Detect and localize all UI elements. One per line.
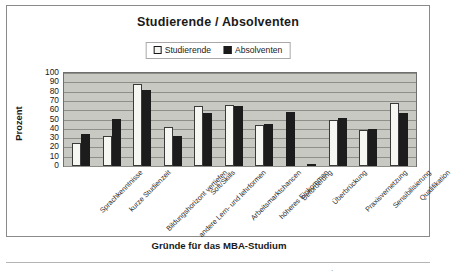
legend-swatch-absolventen-icon [224, 46, 232, 54]
bar-absolventen [399, 113, 408, 166]
y-axis-ticks: 1009080706050403020100 [29, 66, 59, 173]
legend-swatch-studierende-icon [154, 46, 162, 54]
bar-studierende [225, 105, 234, 166]
y-tick-label: 20 [50, 142, 59, 150]
legend-item-absolventen: Absolventen [224, 45, 282, 55]
bar-group [225, 105, 243, 166]
bar-absolventen [81, 134, 90, 166]
bar-group [72, 134, 90, 166]
bar-group [133, 84, 151, 166]
bar-studierende [133, 84, 142, 166]
chart-legend: Studierende Absolventen [146, 42, 291, 59]
chart-title: Studierende / Absolventen [7, 15, 429, 29]
gridline [64, 166, 416, 167]
bar-group [359, 129, 377, 166]
x-tick-label: Überbrückung [331, 168, 369, 206]
y-tick-label: 0 [54, 161, 59, 169]
legend-label-studierende: Studierende [165, 45, 211, 55]
bar-absolventen [307, 164, 316, 166]
bar-group [286, 112, 295, 166]
bar-group [329, 118, 347, 166]
bar-absolventen [142, 90, 151, 166]
y-tick-label: 40 [50, 124, 59, 132]
legend-item-studierende: Studierende [154, 45, 211, 55]
bar-absolventen [368, 129, 377, 166]
bar-series-container [64, 73, 416, 166]
y-tick-label: 60 [50, 105, 59, 113]
bar-absolventen [112, 119, 121, 166]
y-tick-label: 70 [50, 96, 59, 104]
x-tick-label: Beförderung [299, 168, 333, 202]
bar-group [390, 103, 408, 166]
plot-area [63, 72, 417, 167]
bar-group [255, 124, 273, 166]
bar-studierende [164, 127, 173, 166]
y-tick-label: 30 [50, 133, 59, 141]
bar-studierende [255, 125, 264, 166]
y-tick-label: 100 [45, 68, 59, 76]
bar-studierende [72, 143, 81, 166]
y-tick-label: 10 [50, 151, 59, 159]
bar-studierende [359, 130, 368, 166]
y-tick-label: 80 [50, 86, 59, 94]
bar-absolventen [286, 112, 295, 166]
bottom-divider [6, 262, 430, 263]
x-axis-title: Gründe für das MBA-Studium [0, 240, 438, 251]
bar-studierende [103, 136, 112, 166]
bar-group [194, 106, 212, 166]
bar-group [307, 164, 316, 166]
bar-absolventen [173, 136, 182, 166]
bar-group [164, 127, 182, 166]
page-mark: . [331, 264, 333, 273]
bar-studierende [329, 120, 338, 166]
chart-frame: Studierende / Absolventen Studierende Ab… [6, 5, 430, 237]
bar-absolventen [234, 106, 243, 166]
bar-absolventen [264, 124, 273, 166]
y-tick-label: 90 [50, 77, 59, 85]
bar-studierende [194, 106, 203, 166]
y-axis-label: Prozent [13, 106, 24, 140]
y-tick-label: 50 [50, 114, 59, 122]
x-axis-tick-labels: Sprachkenntnissekurze StudienzeitBildung… [63, 168, 417, 238]
bar-absolventen [338, 118, 347, 166]
bar-absolventen [203, 113, 212, 166]
bar-studierende [390, 103, 399, 166]
legend-label-absolventen: Absolventen [235, 45, 282, 55]
bar-group [103, 119, 121, 166]
